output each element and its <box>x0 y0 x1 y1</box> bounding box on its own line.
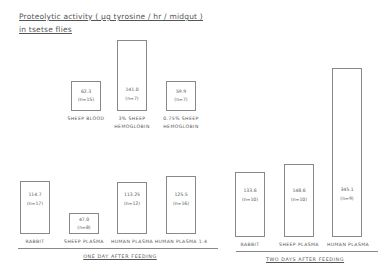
bar-value: 141.0 <box>118 87 146 92</box>
chart-title: Proteolytic activity ( μg tyrosine / hr … <box>19 12 203 21</box>
label-day2-human-plasma: HUMAN PLASMA <box>318 241 378 249</box>
bar-value: 47.0 <box>70 217 98 222</box>
bar-n: (n=10) <box>285 197 313 202</box>
chart-subtitle: in tsetse flies <box>19 25 72 34</box>
bar-day1-sheep-plasma: 47.0 (n=8) <box>69 213 99 234</box>
bar-n: (n=8) <box>70 225 98 230</box>
bar-n: (n=16) <box>167 201 195 206</box>
bar-n: (n=15) <box>72 97 100 102</box>
bar-value: 345.1 <box>333 187 361 192</box>
day1-group-label: ONE DAY AFTER FEEDING <box>40 254 200 259</box>
bar-day2-rabbit: 133.6 (n=10) <box>235 172 265 237</box>
bar-value: 59.9 <box>167 89 195 94</box>
label-075pct-hemoglobin: HEMOGLOBIN <box>151 123 211 131</box>
bar-day1-human-plasma-1-4: 125.5 (n=16) <box>166 176 196 234</box>
day2-group-label: TWO DAYS AFTER FEEDING <box>250 257 360 262</box>
label-075pct-sheep: 0.75% SHEEP <box>151 115 211 123</box>
bar-3pct-sheep-hemoglobin: 141.0 (n=7) <box>117 40 147 111</box>
bar-n: (n=7) <box>118 96 146 101</box>
bar-n: (n=7) <box>167 97 195 102</box>
bar-n: (n=12) <box>118 201 146 206</box>
day1-axis-line <box>18 248 218 249</box>
bar-day1-rabbit: 114.7 (n=17) <box>20 181 50 234</box>
bar-value: 114.7 <box>21 192 49 197</box>
bar-n: (n=17) <box>21 201 49 206</box>
bar-sheep-blood: 62.3 (n=15) <box>71 81 101 111</box>
bar-n: (n=10) <box>236 197 264 202</box>
bar-075pct-sheep-hemoglobin: 59.9 (n=7) <box>166 81 196 111</box>
label-day1-human-plasma-1-4: HUMAN PLASMA 1:4 <box>146 238 216 246</box>
day2-axis-line <box>236 251 378 252</box>
bar-day1-human-plasma: 113.25 (n=12) <box>117 182 147 234</box>
bar-n: (n=9) <box>333 196 361 201</box>
bar-value: 148.6 <box>285 188 313 193</box>
bar-day2-sheep-plasma: 148.6 (n=10) <box>284 164 314 237</box>
bar-value: 125.5 <box>167 192 195 197</box>
bar-value: 62.3 <box>72 89 100 94</box>
bar-day2-human-plasma: 345.1 (n=9) <box>332 68 362 237</box>
bar-value: 133.6 <box>236 188 264 193</box>
bar-value: 113.25 <box>118 192 146 197</box>
